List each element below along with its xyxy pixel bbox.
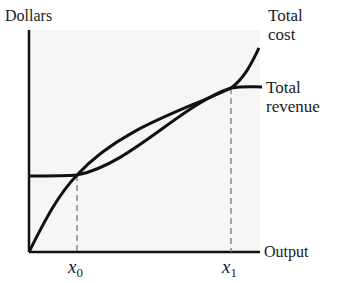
total-revenue-label: Total revenue bbox=[266, 78, 320, 116]
total-revenue-label-line1: Total bbox=[266, 78, 320, 97]
x-axis-label: Output bbox=[264, 242, 308, 261]
total-revenue-label-line2: revenue bbox=[266, 97, 320, 116]
total-cost-label-line2: cost bbox=[268, 25, 303, 44]
total-cost-label: Total cost bbox=[268, 6, 303, 44]
x1-tick: x1 bbox=[222, 256, 237, 281]
x1-sub: 1 bbox=[230, 265, 237, 280]
total-revenue-curve bbox=[29, 87, 262, 176]
x0-tick: x0 bbox=[68, 256, 83, 281]
total-cost-label-line1: Total bbox=[268, 6, 303, 25]
x0-sub: 0 bbox=[76, 265, 83, 280]
y-axis-label: Dollars bbox=[5, 6, 52, 25]
total-cost-curve bbox=[29, 48, 259, 252]
